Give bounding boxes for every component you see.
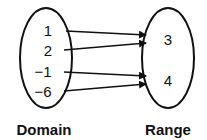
- arrow-neg1-to-4: [64, 72, 146, 76]
- range-ellipse: [142, 8, 194, 108]
- range-label: Range: [145, 121, 191, 138]
- arrow-neg6-to-4: [64, 84, 146, 91]
- domain-value-2: 2: [44, 42, 52, 59]
- domain-value-3: −1: [34, 63, 51, 80]
- range-value-2: 4: [164, 72, 172, 89]
- range-value-1: 3: [164, 31, 172, 48]
- arrow-1-to-3: [66, 31, 146, 35]
- mapping-diagram: 1 2 −1 −6 3 4 Domain Range: [0, 0, 207, 140]
- domain-value-1: 1: [44, 22, 52, 39]
- domain-label: Domain: [16, 121, 71, 138]
- arrow-2-to-3: [64, 43, 146, 50]
- domain-value-4: −6: [34, 83, 51, 100]
